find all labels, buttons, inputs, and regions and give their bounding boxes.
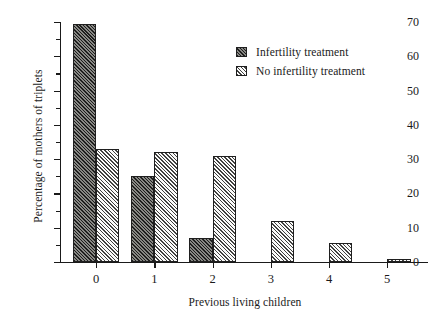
y-tick-label: 10 [407,222,419,234]
y-tick-major [54,193,61,194]
legend-item: No infertility treatment [236,61,365,80]
legend-swatch-icon [236,66,247,76]
x-tick-label: 1 [151,272,157,287]
bar-5-series-1 [387,259,410,262]
legend-label: No infertility treatment [256,65,365,77]
y-axis-line [60,22,61,263]
y-tick-major [54,228,61,229]
bar-chart: Percentage of mothers of triplets 010203… [0,0,435,318]
y-tick-major [54,56,61,57]
legend-item: Infertility treatment [236,42,365,61]
y-tick-label: 50 [407,85,419,97]
x-tick [154,263,155,268]
bar-4-series-1 [329,243,352,262]
y-tick-label: 60 [407,50,419,62]
bar-0-series-1 [96,149,119,262]
y-tick-minor [56,245,60,246]
y-tick-minor [56,108,60,109]
y-tick-minor [56,176,60,177]
y-tick-major [54,91,61,92]
y-tick-major [54,159,61,160]
x-tick-label: 4 [326,272,332,287]
legend-label: Infertility treatment [256,46,348,58]
y-tick-label: 70 [407,16,419,28]
y-tick-major [54,125,61,126]
y-tick-major [54,262,61,263]
y-tick-label: 40 [407,119,419,131]
y-tick-label: 0 [413,256,419,268]
x-tick [213,263,214,268]
x-tick [96,263,97,268]
y-tick-label: 30 [407,153,419,165]
bar-2-series-0 [189,238,212,262]
y-tick-label: 20 [407,187,419,199]
x-tick [387,263,388,268]
y-tick-minor [56,39,60,40]
x-tick-label: 3 [268,272,274,287]
bar-1-series-1 [154,152,177,262]
x-tick [329,263,330,268]
legend-swatch-icon [236,47,247,57]
y-tick-minor [56,142,60,143]
y-tick-major [54,22,61,23]
x-tick-label: 0 [93,272,99,287]
chart-legend: Infertility treatmentNo infertility trea… [236,42,365,80]
bar-0-series-0 [73,24,96,262]
bar-2-series-1 [213,156,236,262]
y-tick-minor [56,73,60,74]
x-tick-label: 5 [384,272,390,287]
x-tick [271,263,272,268]
bar-3-series-1 [271,221,294,262]
x-axis-title: Previous living children [55,296,435,308]
bar-1-series-0 [131,176,154,262]
x-tick-label: 2 [209,272,215,287]
y-tick-minor [56,211,60,212]
y-axis-title: Percentage of mothers of triplets [32,26,44,266]
x-axis-line [60,262,428,263]
